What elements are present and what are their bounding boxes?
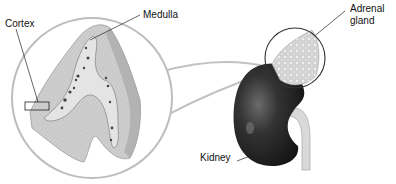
diagram-artwork [0, 0, 396, 184]
label-cortex: Cortex [5, 18, 34, 29]
label-medulla: Medulla [143, 9, 178, 20]
adrenal-gland-illustration [265, 28, 325, 88]
label-adrenal-line2: gland [350, 15, 374, 26]
label-kidney: Kidney [200, 152, 231, 163]
label-adrenal-line1: Adrenal [350, 3, 384, 14]
adrenal-gland-diagram: Cortex Medulla Adrenal gland Kidney [0, 0, 396, 184]
